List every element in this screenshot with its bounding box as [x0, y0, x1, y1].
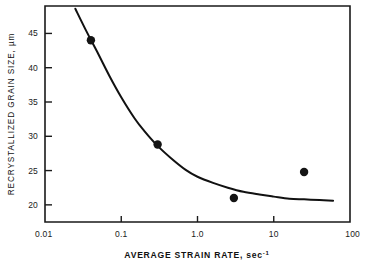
y-tick-label: 45	[28, 28, 38, 38]
recrystallized-grain-size-vs-strain-rate-chart: 202530354045 0.010.11.010100 AVERAGE STR…	[0, 0, 368, 268]
y-tick-label: 25	[28, 166, 38, 176]
x-axis-tick-labels: 0.010.11.010100	[35, 229, 360, 239]
y-axis-tick-labels: 202530354045	[28, 28, 38, 209]
y-axis-title: RECRYSTALLIZED GRAIN SIZE, µm	[7, 33, 16, 195]
x-axis-ticks	[121, 216, 274, 222]
x-tick-label: 10	[269, 229, 279, 239]
fitted-curve	[75, 9, 333, 201]
y-tick-label: 40	[28, 63, 38, 73]
y-axis-ticks	[45, 33, 52, 204]
x-axis-title-exponent: -1	[263, 250, 270, 256]
x-tick-label: 0.01	[35, 229, 52, 239]
data-point	[153, 140, 161, 148]
x-tick-label: 100	[345, 229, 360, 239]
x-axis-title: AVERAGE STRAIN RATE, sec-1	[124, 250, 269, 261]
data-point	[300, 168, 308, 176]
chart-figure: 202530354045 0.010.11.010100 AVERAGE STR…	[0, 0, 368, 268]
x-tick-label: 0.1	[115, 229, 127, 239]
y-tick-label: 35	[28, 97, 38, 107]
data-point	[87, 36, 95, 44]
x-tick-label: 1.0	[191, 229, 203, 239]
y-tick-label: 20	[28, 200, 38, 210]
y-tick-label: 30	[28, 131, 38, 141]
data-point	[230, 194, 238, 202]
